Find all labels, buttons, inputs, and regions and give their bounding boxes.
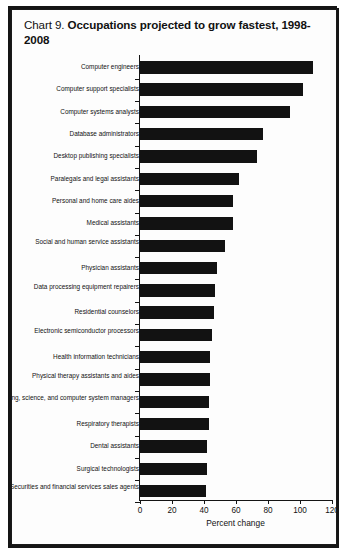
plot-area: Computer engineersComputer support speci… [12,10,337,545]
bar-row: Computer engineers [12,57,337,79]
bar [140,485,206,497]
bar-category-label: Surgical technologists [11,465,139,472]
bar-category-label: Database administrators [11,130,139,137]
bar-category-label: Desktop publishing specialists [11,152,139,159]
bar-row: Physician assistants [12,258,337,280]
bar [140,150,257,162]
x-axis-tick [268,500,269,504]
x-axis-tick [236,500,237,504]
bar-row: Securities and financial services sales … [12,481,337,503]
bar [140,173,239,185]
x-axis-tick-label: 40 [189,506,219,515]
chart-container: Chart 9. Occupations projected to grow f… [11,9,337,545]
bar [140,284,215,296]
frame-edge-bottom [11,545,339,548]
bar-category-label: Computer systems analysts [11,108,139,115]
bar-row: Dental assistants [12,436,337,458]
x-axis-tick [204,500,205,504]
bar [140,351,210,363]
bar [140,195,233,207]
bar [140,306,214,318]
x-axis-tick-label: 0 [125,506,155,515]
bar-row: Paralegals and legal assistants [12,169,337,191]
bar-category-label: Engineering, science, and computer syste… [11,394,139,401]
bar [140,329,212,341]
bar-category-label: Physician assistants [11,264,139,271]
bar-row: Database administrators [12,124,337,146]
bar-row: Social and human service assistants [12,235,337,257]
bar [140,396,209,408]
x-axis-tick [332,500,333,504]
bar-row: Computer systems analysts [12,102,337,124]
bar [140,128,263,140]
x-axis-tick [300,500,301,504]
bar-category-label: Physical therapy assistants and aides [11,372,139,379]
bar [140,106,290,118]
bar-category-label: Computer engineers [11,63,139,70]
bar-row: Personal and home care aides [12,191,337,213]
bar-category-label: Data processing equipment repairers [11,283,139,290]
bar-row: Residential counselors [12,302,337,324]
bar-row: Physical therapy assistants and aides [12,369,337,391]
bar-category-label: Social and human service assistants [11,238,139,245]
bar-category-label: Personal and home care aides [11,197,139,204]
bar-category-label: Computer support specialists [11,85,139,92]
x-axis-tick-label: 80 [253,506,283,515]
bar [140,83,303,95]
bar [140,262,217,274]
x-axis-tick [140,500,141,504]
bar-row: Surgical technologists [12,458,337,480]
x-axis-tick-label: 100 [285,506,315,515]
bar-row: Data processing equipment repairers [12,280,337,302]
x-axis-tick-label: 20 [157,506,187,515]
bar-row: Medical assistants [12,213,337,235]
bar [140,418,209,430]
bar-category-label: Securities and financial services sales … [11,483,139,490]
bar-category-label: Health information technicians [11,353,139,360]
bar-row: Electronic semiconductor processors [12,325,337,347]
bar-row: Computer support specialists [12,79,337,101]
x-axis-tick [172,500,173,504]
bar-category-label: Residential counselors [11,308,139,315]
bar-row: Desktop publishing specialists [12,146,337,168]
x-axis-tick-label: 60 [221,506,251,515]
bar [140,217,233,229]
bar [140,440,207,452]
bar-category-label: Dental assistants [11,442,139,449]
bar [140,240,225,252]
bar-category-label: Electronic semiconductor processors [11,327,139,334]
bar-category-label: Medical assistants [11,219,139,226]
x-axis-tick-label: 120 [317,506,337,515]
bar [140,463,207,475]
bar-row: Respiratory therapists [12,414,337,436]
bar-category-label: Respiratory therapists [11,420,139,427]
y-axis-tick [135,502,140,503]
bar [140,373,210,385]
x-axis-label: Percent change [139,518,332,528]
bar-row: Health information technicians [12,347,337,369]
bar-row: Engineering, science, and computer syste… [12,392,337,414]
bar [140,61,313,73]
bar-category-label: Paralegals and legal assistants [11,175,139,182]
